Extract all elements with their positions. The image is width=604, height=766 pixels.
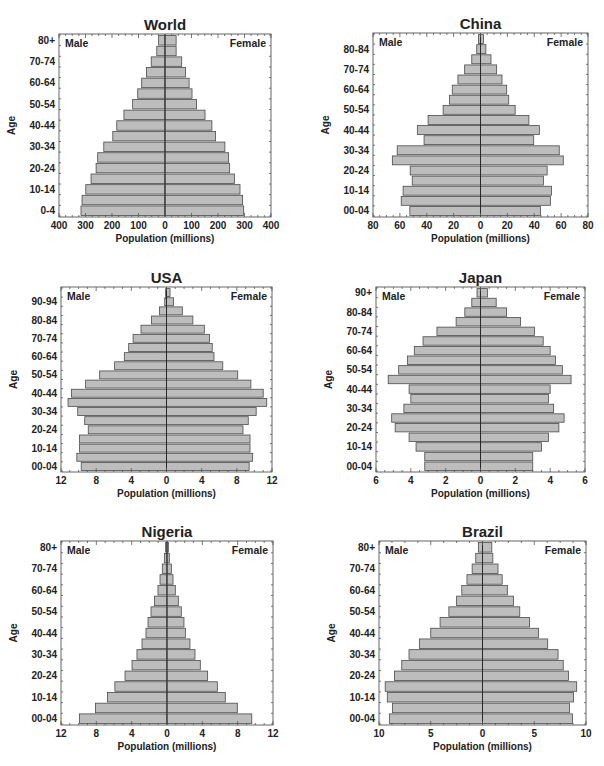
chart-title: USA xyxy=(151,269,183,286)
bar-female-15-19 xyxy=(481,176,544,185)
bar-male-80-84 xyxy=(465,308,481,316)
bar-female-75-79 xyxy=(165,46,176,55)
pyramid-chart-nigeria: Nigeria128404812Population (millions)00-… xyxy=(8,523,279,752)
bar-male-30-34 xyxy=(104,142,165,151)
y-tick-label: 60-64 xyxy=(346,345,372,356)
bar-female-0-4 xyxy=(165,206,244,215)
x-tick-label: 8 xyxy=(93,475,99,486)
bar-male-60-64 xyxy=(124,353,166,361)
bar-male-45-49 xyxy=(440,618,482,628)
bar-female-45-49 xyxy=(167,618,184,628)
bar-male-30-34 xyxy=(409,650,482,660)
y-tick-label: 50-54 xyxy=(343,104,369,115)
bar-female-10-14 xyxy=(165,185,240,194)
pyramid-chart-china: China80604020020406080Population (millio… xyxy=(320,15,594,244)
x-tick-label: 8 xyxy=(94,728,100,739)
bar-female-10-14 xyxy=(483,692,574,702)
bar-male-90+ xyxy=(477,289,480,297)
y-tick-label: 40-44 xyxy=(31,388,57,399)
bar-male-10-14 xyxy=(387,692,482,702)
bar-female-50-54 xyxy=(483,607,520,617)
bar-female-70-74 xyxy=(167,334,210,342)
bar-male-50-54 xyxy=(151,607,167,617)
x-tick-label: 400 xyxy=(51,220,68,231)
bar-male-70-74 xyxy=(472,564,482,574)
bar-female-20-24 xyxy=(167,671,208,681)
x-tick-label: 200 xyxy=(104,220,121,231)
bar-male-55-59 xyxy=(450,95,481,104)
bar-male-05-09 xyxy=(95,703,167,713)
pyramid-chart-usa: USA128404812Population (millions)00-0410… xyxy=(8,269,278,499)
bar-female-05-09 xyxy=(483,703,570,713)
bar-female-70-74 xyxy=(483,564,499,574)
bar-female-15-19 xyxy=(481,433,549,441)
y-axis-label: Age xyxy=(6,116,17,135)
bar-female-80-84 xyxy=(167,316,193,324)
bar-female-65-69 xyxy=(481,75,503,84)
legend-female: Female xyxy=(547,36,583,48)
bar-male-20-24 xyxy=(410,166,480,175)
x-tick-label: 2 xyxy=(513,475,519,486)
bar-female-95+ xyxy=(167,289,171,297)
y-tick-label: 0-4 xyxy=(41,205,56,216)
bar-female-50-54 xyxy=(481,105,516,114)
bar-male-55-59 xyxy=(138,89,165,98)
x-tick-label: 10 xyxy=(373,728,385,739)
x-tick-label: 12 xyxy=(55,728,67,739)
bar-male-80+ xyxy=(478,543,482,553)
bar-male-80-84 xyxy=(477,45,481,54)
y-axis-label: Age xyxy=(323,370,334,389)
bar-female-30-34 xyxy=(481,404,554,412)
y-tick-label: 60-64 xyxy=(343,84,369,95)
bar-male-65-69 xyxy=(458,75,481,84)
bar-female-35-39 xyxy=(483,639,548,649)
bar-female-75-79 xyxy=(167,325,205,333)
bar-female-45-49 xyxy=(481,115,529,124)
bar-female-30-34 xyxy=(483,650,559,660)
bar-female-65-69 xyxy=(165,68,185,77)
bar-male-00-04 xyxy=(389,714,482,724)
bar-male-80+ xyxy=(159,36,165,45)
x-tick-label: 4 xyxy=(129,728,135,739)
y-tick-label: 80+ xyxy=(38,35,55,46)
bar-male-40-44 xyxy=(72,389,167,397)
x-tick-label: 2 xyxy=(443,475,449,486)
bar-male-30-34 xyxy=(404,404,481,412)
bar-male-05-09 xyxy=(77,453,167,461)
x-tick-label: 0 xyxy=(162,220,168,231)
pyramid-chart-brazil: Brazil1050510Population (millions)00-041… xyxy=(326,523,592,752)
x-axis-label: Population (millions) xyxy=(431,233,530,244)
bar-female-40-44 xyxy=(167,389,264,397)
x-tick-label: 80 xyxy=(582,220,594,231)
x-tick-label: 4 xyxy=(200,728,206,739)
bar-male-15-19 xyxy=(409,433,480,441)
bar-female-70-74 xyxy=(481,327,535,335)
legend-female: Female xyxy=(232,544,268,556)
bar-female-10-14 xyxy=(167,444,251,452)
bar-male-15-19 xyxy=(115,682,167,692)
bar-female-60-64 xyxy=(481,346,551,354)
bar-male-65-69 xyxy=(467,575,483,585)
y-tick-label: 00-04 xyxy=(343,205,369,216)
x-tick-label: 100 xyxy=(130,220,147,231)
bar-male-35-39 xyxy=(411,395,481,403)
bar-female-40-44 xyxy=(481,385,551,393)
bar-female-35-39 xyxy=(167,398,267,406)
x-tick-label: 4 xyxy=(408,475,414,486)
bar-female-80-84 xyxy=(481,308,507,316)
y-tick-label: 50-54 xyxy=(349,606,375,617)
x-tick-label: 300 xyxy=(236,220,253,231)
bar-female-55-59 xyxy=(167,596,178,606)
bar-male-05-09 xyxy=(425,452,481,460)
bar-male-20-24 xyxy=(96,163,165,172)
bar-female-45-49 xyxy=(481,375,572,383)
bar-female-70-74 xyxy=(481,65,497,74)
bar-male-15-19 xyxy=(412,176,480,185)
x-tick-label: 40 xyxy=(421,220,433,231)
x-tick-label: 0 xyxy=(164,475,170,486)
y-tick-label: 70-74 xyxy=(31,333,57,344)
bar-male-60-64 xyxy=(142,78,165,87)
bar-female-60-64 xyxy=(167,585,175,595)
x-axis-label: Population (millions) xyxy=(431,488,530,499)
x-tick-label: 12 xyxy=(266,475,278,486)
